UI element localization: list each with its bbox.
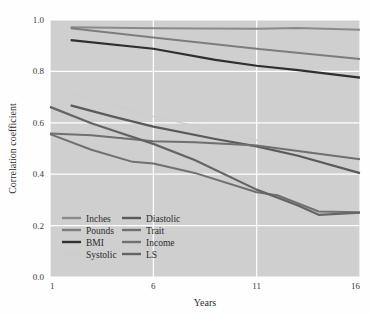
correlation-line-chart: 0.00.20.40.60.81.0 161116 Correlation co…: [0, 0, 371, 315]
x-tick-label: 11: [252, 281, 261, 291]
y-tick-label: 1.0: [33, 15, 45, 25]
chart-figure: 0.00.20.40.60.81.0 161116 Correlation co…: [0, 0, 371, 315]
legend-label-income: Income: [146, 238, 175, 248]
y-tick-label: 0.4: [33, 169, 45, 179]
legend-label-inches: Inches: [86, 214, 111, 224]
x-tick-label: 6: [151, 281, 156, 291]
y-tick-label: 0.8: [33, 66, 45, 76]
x-axis-title: Years: [194, 297, 216, 308]
legend-label-ls: LS: [146, 250, 157, 260]
y-tick-label: 0.6: [33, 118, 45, 128]
y-axis-title: Correlation coefficient: [7, 103, 18, 194]
y-tick-label: 0.2: [33, 221, 44, 231]
legend-label-systolic: Systolic: [86, 250, 117, 260]
legend-label-pounds: Pounds: [86, 226, 114, 236]
x-tick-label: 16: [351, 281, 361, 291]
x-tick-label: 1: [50, 281, 55, 291]
legend-label-trait: Trait: [146, 226, 164, 236]
legend-label-diastolic: Diastolic: [146, 214, 180, 224]
y-tick-label: 0.0: [33, 272, 45, 282]
legend-label-bmi: BMI: [86, 238, 104, 248]
